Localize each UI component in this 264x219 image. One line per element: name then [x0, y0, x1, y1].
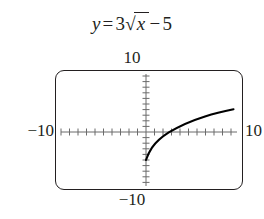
radical-sign-icon: √: [125, 13, 136, 34]
equation-minus: −: [147, 13, 162, 34]
radicand: x: [136, 13, 148, 34]
equation-equals: =: [101, 13, 116, 34]
equation-caption: y=3√x−5: [0, 11, 264, 37]
function-curve: [146, 109, 234, 160]
window-label-xmin: −10: [4, 121, 54, 140]
equation-lhs: y: [92, 13, 101, 34]
radical-expression: √x: [125, 11, 147, 37]
graph-plot-area: [55, 70, 243, 190]
window-label-ymax: 10: [0, 48, 264, 67]
equation-coefficient: 3: [115, 13, 125, 34]
figure-container: y=3√x−5: [0, 0, 264, 219]
equation-constant: 5: [162, 13, 172, 34]
window-label-ymin: −10: [0, 190, 264, 209]
window-label-xmax: 10: [245, 121, 262, 140]
